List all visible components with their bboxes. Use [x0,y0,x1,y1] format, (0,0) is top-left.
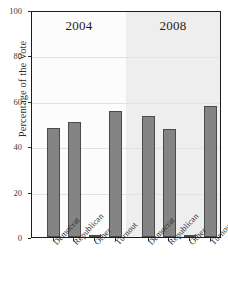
y-tick-label: 100 [0,7,28,16]
x-axis-tick-labels: DemocratRepublicanOtherTurnoutDemocratRe… [31,238,221,289]
gridline [32,57,220,58]
gridline [32,194,220,195]
y-tick-label: 40 [0,143,28,152]
y-axis-tick-labels: 020406080100 [0,0,28,289]
plot-area: 2004 2008 [31,11,221,238]
panel-label-2008: 2008 [126,18,220,34]
bar [142,116,155,237]
bar [204,106,217,237]
gridline [32,103,220,104]
y-tick-label: 0 [0,234,28,243]
y-tick-label: 20 [0,189,28,198]
chart-figure: Percentage of the Vote 020406080100 2004… [0,0,228,289]
bar [47,128,60,237]
gridline [32,148,220,149]
panel-label-2004: 2004 [32,18,126,34]
clipped-chart-title [150,0,180,4]
y-tick-label: 80 [0,52,28,61]
y-tick-label: 60 [0,98,28,107]
bar [109,111,122,237]
